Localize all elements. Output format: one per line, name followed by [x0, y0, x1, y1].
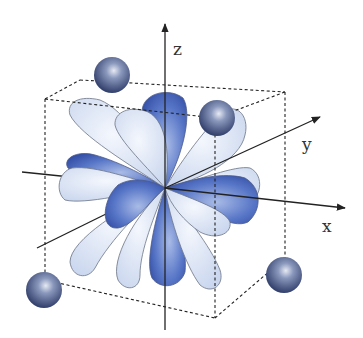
ligand-sphere-bottom-right: [266, 257, 302, 293]
y-axis-label: y: [301, 134, 312, 154]
ligand-sphere-top-left: [94, 57, 130, 93]
z-axis-label: z: [173, 39, 182, 59]
ligand-sphere-top-right: [199, 100, 235, 136]
d-orbital-diagram: z y x: [0, 0, 363, 338]
ligand-sphere-bottom-left: [26, 272, 62, 308]
x-axis-label: x: [322, 216, 332, 236]
